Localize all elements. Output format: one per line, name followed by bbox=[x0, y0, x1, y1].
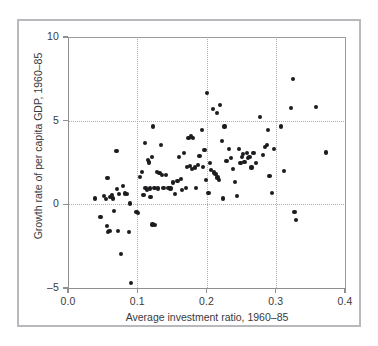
data-point bbox=[125, 192, 129, 196]
data-point bbox=[117, 192, 121, 196]
x-axis-label: Average investment ratio, 1960–85 bbox=[68, 311, 346, 323]
x-tick-label: 0.1 bbox=[117, 295, 157, 307]
data-point bbox=[129, 281, 133, 285]
x-tick-mark bbox=[67, 288, 68, 293]
data-point bbox=[196, 163, 200, 167]
x-tick-mark bbox=[344, 288, 345, 293]
plot-wrapper: –50510 0.00.10.20.30.4 Average investmen… bbox=[0, 0, 378, 346]
data-point bbox=[233, 180, 237, 184]
data-point bbox=[200, 128, 204, 132]
data-point bbox=[150, 155, 154, 159]
data-point bbox=[227, 147, 231, 151]
data-point bbox=[93, 196, 97, 200]
data-point bbox=[237, 147, 241, 151]
data-point bbox=[272, 147, 276, 151]
x-tick-mark bbox=[137, 288, 138, 293]
data-point bbox=[197, 154, 201, 158]
data-point bbox=[140, 170, 144, 174]
data-point bbox=[136, 211, 140, 215]
data-point bbox=[218, 103, 222, 107]
data-point bbox=[173, 192, 177, 196]
data-point bbox=[179, 177, 183, 181]
data-point bbox=[191, 136, 195, 140]
data-point bbox=[202, 148, 206, 152]
data-point bbox=[251, 151, 255, 155]
data-point bbox=[148, 186, 152, 190]
scatter-plot-area bbox=[68, 37, 345, 288]
x-tick-label: 0.2 bbox=[187, 295, 227, 307]
y-tick-label: –5 bbox=[30, 281, 59, 293]
data-point bbox=[267, 174, 271, 178]
data-point bbox=[292, 210, 296, 214]
data-point bbox=[231, 167, 235, 171]
data-point bbox=[141, 193, 145, 197]
data-point bbox=[224, 159, 228, 163]
data-point bbox=[168, 186, 172, 190]
data-point bbox=[114, 149, 118, 153]
data-point bbox=[182, 151, 186, 155]
data-point bbox=[159, 143, 163, 147]
data-point bbox=[148, 195, 152, 199]
data-point bbox=[184, 186, 188, 190]
data-point bbox=[247, 155, 251, 159]
data-point bbox=[215, 111, 219, 115]
data-point bbox=[265, 143, 269, 147]
data-point bbox=[294, 218, 298, 222]
data-point bbox=[153, 223, 157, 227]
data-point bbox=[266, 128, 270, 132]
data-point bbox=[115, 187, 119, 191]
x-tick-label: 0.0 bbox=[48, 295, 88, 307]
data-point bbox=[201, 165, 205, 169]
data-point bbox=[217, 178, 221, 182]
data-point bbox=[177, 155, 181, 159]
data-point bbox=[98, 215, 102, 219]
data-point bbox=[116, 229, 120, 233]
data-point bbox=[112, 209, 116, 213]
data-point bbox=[221, 196, 225, 200]
data-point bbox=[324, 150, 328, 154]
data-point bbox=[119, 252, 123, 256]
data-point bbox=[143, 141, 147, 145]
data-point bbox=[204, 178, 208, 182]
data-point bbox=[254, 161, 258, 165]
y-axis-label: Growth rate of per capita GDP, 1960–85 bbox=[32, 36, 44, 256]
data-point bbox=[289, 106, 293, 110]
data-point bbox=[279, 124, 283, 128]
data-point bbox=[105, 176, 109, 180]
data-point bbox=[220, 139, 224, 143]
data-point bbox=[105, 224, 109, 228]
data-point bbox=[156, 186, 160, 190]
data-point bbox=[127, 230, 131, 234]
data-point bbox=[249, 165, 253, 169]
data-point bbox=[258, 115, 262, 119]
data-point bbox=[291, 77, 295, 81]
data-point bbox=[151, 124, 155, 128]
data-point bbox=[222, 124, 226, 128]
data-point bbox=[107, 229, 111, 233]
data-point bbox=[261, 153, 265, 157]
data-point bbox=[206, 191, 210, 195]
data-point bbox=[138, 175, 142, 179]
data-point bbox=[242, 160, 246, 164]
x-tick-label: 0.4 bbox=[325, 295, 365, 307]
data-point bbox=[205, 91, 209, 95]
data-point bbox=[164, 173, 168, 177]
figure-container: –50510 0.00.10.20.30.4 Average investmen… bbox=[0, 0, 378, 346]
data-point bbox=[211, 107, 215, 111]
data-point bbox=[161, 186, 165, 190]
data-point bbox=[194, 186, 198, 190]
data-point bbox=[282, 169, 286, 173]
data-point bbox=[147, 160, 151, 164]
data-point bbox=[229, 156, 233, 160]
data-point bbox=[208, 161, 212, 165]
data-point bbox=[270, 191, 274, 195]
x-tick-mark bbox=[206, 288, 207, 293]
data-point bbox=[314, 105, 318, 109]
data-point bbox=[235, 194, 239, 198]
x-tick-label: 0.3 bbox=[256, 295, 296, 307]
data-point bbox=[111, 196, 115, 200]
data-point bbox=[128, 201, 132, 205]
x-tick-mark bbox=[275, 288, 276, 293]
data-point bbox=[121, 184, 125, 188]
